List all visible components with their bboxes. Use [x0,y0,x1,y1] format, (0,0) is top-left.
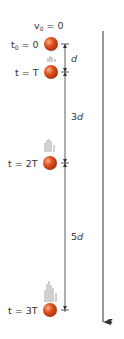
motion-lines-t1 [48,56,55,62]
initial-velocity-label: v0 = 0 [34,20,64,32]
motion-lines-t3 [45,281,56,302]
distance-d-label: d [71,53,78,64]
ball-t1 [44,65,58,79]
t0-label: t0 = 0 [11,39,39,51]
distance-3d-label: 3d [71,111,84,122]
s-axis-label: s [107,315,113,326]
t3-label: t = 3T [8,305,38,316]
ball-t3 [43,303,57,317]
ball-t0 [44,37,58,51]
distance-5d-label: 5d [71,231,84,242]
ball-t2 [43,156,57,170]
t1-label: t = T [15,67,39,78]
motion-lines-t2 [45,139,54,152]
t2-label: t = 2T [8,158,38,169]
free-fall-diagram: v0 = 0 t0 = 0 t = T t = 2T t = 3T d 3d 5… [0,0,124,339]
distance-ruler [61,44,69,312]
